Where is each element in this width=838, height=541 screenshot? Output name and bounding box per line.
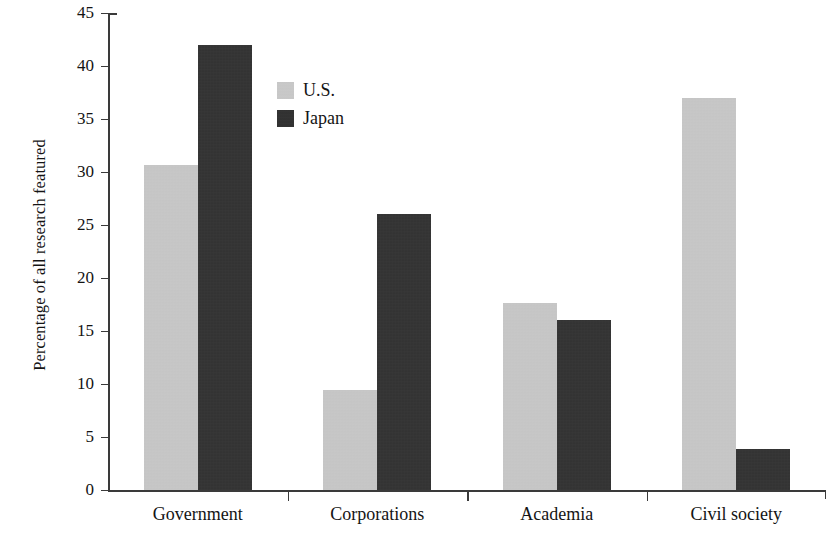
x-category-label: Academia xyxy=(467,504,647,525)
legend-swatch-icon-us xyxy=(277,82,294,99)
bar xyxy=(323,390,377,490)
legend-swatch-icon-japan xyxy=(277,110,294,127)
y-tick-label: 45 xyxy=(52,4,94,21)
y-axis-line xyxy=(108,13,110,491)
bar xyxy=(736,449,790,490)
y-tick-label: 30 xyxy=(52,163,94,180)
legend: U.S. Japan xyxy=(277,76,344,132)
x-axis-separator-tick xyxy=(288,491,290,501)
bar xyxy=(144,165,198,490)
y-tick-label: 0 xyxy=(52,481,94,498)
y-tick-label: 20 xyxy=(52,269,94,286)
legend-item-us: U.S. xyxy=(277,76,344,104)
x-category-label: Corporations xyxy=(288,504,468,525)
y-axis-top-cap xyxy=(108,13,117,15)
y-axis-title: Percentage of all research featured xyxy=(30,15,50,495)
y-tick-label: 40 xyxy=(52,57,94,74)
x-axis-end-tick xyxy=(825,490,827,499)
x-axis-separator-tick xyxy=(467,491,469,501)
x-category-label: Government xyxy=(108,504,288,525)
y-tick-label: 35 xyxy=(52,110,94,127)
bar xyxy=(377,214,431,490)
y-tick-label: 25 xyxy=(52,216,94,233)
y-tick-label: 15 xyxy=(52,322,94,339)
bar xyxy=(503,303,557,490)
legend-label-us: U.S. xyxy=(303,81,335,99)
bar xyxy=(557,320,611,490)
bar-chart: Percentage of all research featured 0510… xyxy=(0,0,838,541)
x-category-label: Civil society xyxy=(647,504,827,525)
legend-label-japan: Japan xyxy=(303,109,344,127)
y-tick-label: 10 xyxy=(52,375,94,392)
x-axis-separator-tick xyxy=(647,491,649,501)
y-tick-label: 5 xyxy=(52,428,94,445)
bar xyxy=(682,98,736,490)
legend-item-japan: Japan xyxy=(277,104,344,132)
bar xyxy=(198,45,252,490)
